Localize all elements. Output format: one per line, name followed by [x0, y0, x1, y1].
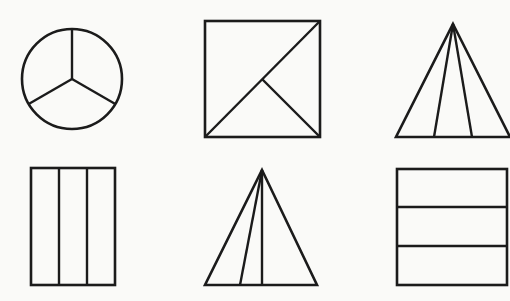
shape-triangle-unequal — [205, 170, 317, 285]
triangle-unequal-cevian-left — [240, 170, 262, 285]
shape-circle-thirds — [22, 29, 122, 129]
figure-sheet — [0, 0, 510, 301]
shape-square-horizontal-thirds — [397, 169, 507, 285]
circle-radius-lower-left — [29, 79, 72, 104]
figures-canvas — [0, 0, 510, 301]
shape-square-diagonal — [205, 21, 320, 137]
square-half-diagonal — [262, 79, 320, 137]
shape-rectangle-vertical-thirds — [31, 168, 115, 285]
square-horizontal-outline — [397, 169, 507, 285]
triangle-outline — [396, 24, 510, 137]
circle-radius-lower-right — [72, 79, 115, 104]
shape-triangle-thirds-top — [396, 24, 510, 137]
rectangle-outline — [31, 168, 115, 285]
